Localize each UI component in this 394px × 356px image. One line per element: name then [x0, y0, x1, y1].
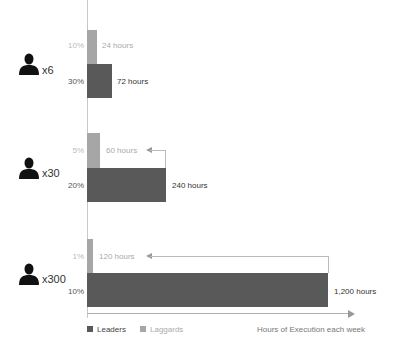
arrow-line — [165, 150, 166, 168]
x-axis-arrow-icon — [348, 310, 355, 318]
arrow-line — [150, 256, 328, 257]
legend-label-leaders: Leaders — [97, 325, 126, 334]
laggard-bar — [87, 30, 97, 64]
laggard-hours: 24 hours — [102, 41, 133, 50]
leader-bar — [87, 168, 166, 202]
person-icon — [19, 263, 39, 285]
laggard-percent: 5% — [54, 146, 84, 155]
leader-hours: 240 hours — [172, 181, 208, 190]
laggard-percent: 1% — [54, 252, 84, 261]
group-multiplier: x30 — [42, 167, 60, 179]
leader-percent: 10% — [54, 287, 84, 296]
arrow-line — [150, 150, 166, 151]
leader-percent: 20% — [54, 181, 84, 190]
laggard-bar — [87, 239, 93, 273]
group-multiplier: x6 — [42, 64, 54, 76]
leader-percent: 30% — [54, 77, 84, 86]
person-icon — [19, 157, 39, 179]
leader-bar — [87, 273, 328, 307]
laggard-percent: 10% — [54, 41, 84, 50]
group-multiplier: x300 — [42, 273, 66, 285]
legend-swatch-leaders — [87, 326, 93, 332]
leader-hours: 1,200 hours — [334, 287, 376, 296]
x-axis-label: Hours of Execution each week — [257, 325, 365, 334]
legend-label-laggards: Laggards — [150, 325, 183, 334]
arrow-line — [328, 256, 329, 273]
leader-bar — [87, 64, 112, 98]
x-axis-line — [87, 313, 349, 314]
leader-hours: 72 hours — [117, 77, 148, 86]
laggard-hours: 120 hours — [99, 252, 135, 261]
person-icon — [19, 53, 39, 75]
laggard-hours: 60 hours — [106, 146, 137, 155]
legend-swatch-laggards — [140, 326, 146, 332]
laggard-bar — [87, 133, 100, 168]
